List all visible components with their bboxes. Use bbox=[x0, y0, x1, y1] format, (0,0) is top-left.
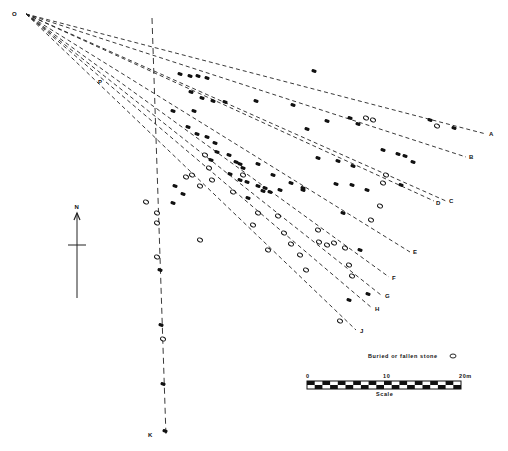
north-label: N bbox=[75, 204, 79, 210]
stone-fallen bbox=[250, 222, 256, 228]
stone-standing bbox=[214, 150, 220, 155]
stone-fallen bbox=[206, 165, 212, 171]
stone-fallen bbox=[160, 336, 166, 342]
stone-standing bbox=[187, 74, 193, 79]
stone-fallen bbox=[380, 180, 386, 186]
stone-fallen bbox=[370, 117, 376, 123]
row-line-f bbox=[26, 14, 389, 277]
stones bbox=[143, 69, 457, 434]
stone-standing bbox=[226, 153, 232, 158]
stone-standing bbox=[402, 154, 408, 159]
stone-standing bbox=[237, 162, 243, 167]
stone-standing bbox=[195, 74, 201, 79]
scale-title: Scale bbox=[376, 391, 393, 397]
stone-standing bbox=[158, 323, 164, 328]
scale-segment bbox=[446, 381, 454, 385]
stone-standing bbox=[160, 382, 166, 387]
stone-standing bbox=[240, 166, 246, 171]
stone-fallen bbox=[346, 262, 352, 268]
stone-standing bbox=[267, 190, 273, 195]
stone-standing bbox=[380, 148, 386, 153]
stone-standing bbox=[170, 109, 176, 114]
scale-segment bbox=[361, 385, 369, 389]
stone-standing bbox=[191, 109, 197, 114]
stone-standing bbox=[204, 135, 210, 140]
stone-standing bbox=[170, 201, 176, 206]
scale-tick-label: 10 bbox=[383, 373, 390, 379]
stone-standing bbox=[245, 196, 251, 201]
scale-tick-label: 0 bbox=[306, 373, 310, 379]
row-label-f: F bbox=[392, 275, 396, 281]
stone-fallen bbox=[230, 189, 236, 195]
row-line-k bbox=[152, 18, 166, 436]
stone-standing bbox=[410, 160, 416, 165]
stone-fallen bbox=[154, 254, 160, 260]
stone-standing bbox=[199, 96, 205, 101]
row-label-c: C bbox=[449, 198, 454, 204]
stone-standing bbox=[347, 116, 353, 121]
stone-standing bbox=[177, 72, 183, 77]
vertical-stone-row bbox=[152, 18, 166, 436]
stone-fallen bbox=[240, 172, 246, 178]
stone-standing bbox=[340, 211, 346, 216]
stone-fallen bbox=[349, 273, 355, 279]
stone-fallen bbox=[316, 239, 322, 245]
stone-standing bbox=[212, 141, 218, 146]
scale-tick-label: 20m bbox=[459, 373, 472, 379]
row-label-h: H bbox=[375, 306, 379, 312]
stone-row-map: OABCDEFGHJPK N Buried or fallen stone 01… bbox=[0, 0, 508, 451]
stone-standing bbox=[204, 76, 210, 81]
row-line-b bbox=[26, 14, 466, 157]
row-label-e: E bbox=[413, 249, 417, 255]
stone-fallen bbox=[202, 152, 208, 158]
stone-fallen bbox=[183, 174, 189, 180]
stone-rows bbox=[26, 14, 486, 330]
stone-standing bbox=[304, 127, 310, 132]
stone-standing bbox=[210, 99, 216, 104]
stone-standing bbox=[395, 152, 401, 157]
fallen-stone-icon bbox=[450, 354, 456, 358]
stone-fallen bbox=[315, 227, 321, 233]
stone-fallen bbox=[324, 242, 330, 248]
row-line-e bbox=[26, 14, 410, 252]
stone-fallen bbox=[363, 115, 369, 121]
row-label-j: J bbox=[360, 328, 363, 334]
stone-standing bbox=[253, 99, 259, 104]
scale-segment bbox=[315, 385, 323, 389]
stone-fallen bbox=[331, 240, 337, 246]
stone-standing bbox=[346, 298, 352, 303]
scale-segment bbox=[392, 385, 400, 389]
scale-segment bbox=[430, 381, 438, 385]
stone-standing bbox=[194, 132, 200, 137]
scale-segment bbox=[376, 385, 384, 389]
scale-bar: 01020mScale bbox=[306, 373, 472, 397]
stone-fallen bbox=[368, 217, 374, 223]
scale-segment bbox=[384, 381, 392, 385]
stone-fallen bbox=[154, 210, 160, 216]
scale-segment bbox=[322, 381, 330, 385]
stone-standing bbox=[324, 119, 330, 124]
stone-standing bbox=[357, 248, 363, 253]
stone-standing bbox=[290, 103, 296, 108]
stone-standing bbox=[255, 162, 261, 167]
stone-fallen bbox=[288, 241, 294, 247]
stone-standing bbox=[288, 181, 294, 186]
row-line-c bbox=[26, 14, 446, 201]
north-arrow: N bbox=[68, 204, 86, 298]
stone-standing bbox=[162, 429, 168, 434]
stone-standing bbox=[427, 118, 433, 123]
stone-standing bbox=[398, 183, 404, 188]
stone-fallen bbox=[189, 172, 195, 178]
stone-standing bbox=[255, 184, 261, 189]
stone-standing bbox=[208, 158, 214, 163]
stone-fallen bbox=[377, 203, 383, 209]
stone-standing bbox=[350, 164, 356, 169]
stone-standing bbox=[157, 268, 163, 273]
stone-fallen bbox=[297, 252, 303, 258]
scale-segment bbox=[346, 385, 354, 389]
stone-standing bbox=[180, 192, 186, 197]
scale-segment bbox=[415, 381, 423, 385]
scale-segment bbox=[453, 385, 461, 389]
row-line-j bbox=[26, 14, 356, 330]
row-label-a: A bbox=[489, 131, 494, 137]
